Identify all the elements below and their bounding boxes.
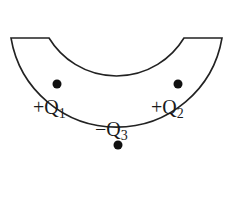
charge-dot-q2 (174, 80, 183, 89)
charge-diagram: +Q1 +Q2 −Q3 (0, 0, 235, 217)
charge-dot-q1 (53, 80, 62, 89)
